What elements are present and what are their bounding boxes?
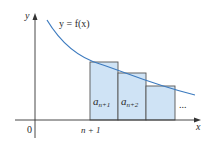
x-axis-label: x xyxy=(195,121,201,132)
rectangles xyxy=(90,62,175,120)
y-axis-arrow-icon xyxy=(33,13,38,20)
rectangle-a-n-plus-1 xyxy=(90,62,118,120)
y-axis-label: y xyxy=(24,10,30,21)
integral-test-diagram: y y = f(x) 0 n + 1 x an+1 an+2 ... xyxy=(0,0,210,141)
origin-label: 0 xyxy=(27,124,32,135)
curve-label: y = f(x) xyxy=(59,18,90,30)
tick-label-n-plus-1: n + 1 xyxy=(81,125,101,135)
continuation-dots: ... xyxy=(179,99,187,110)
rectangle-3 xyxy=(146,86,175,120)
